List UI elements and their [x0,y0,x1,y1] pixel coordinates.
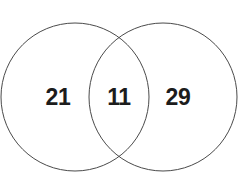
venn-diagram: 21 11 29 [0,0,240,176]
region-label-intersection: 11 [107,86,131,109]
region-label-right-only: 29 [166,86,191,109]
region-label-left-only: 21 [46,86,71,109]
